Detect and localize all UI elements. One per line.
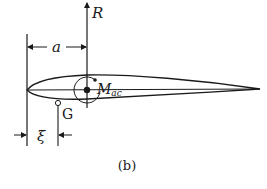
dimension-xi-label: ξ xyxy=(37,127,46,145)
figure-caption: (b) xyxy=(118,158,136,173)
chord-line xyxy=(27,89,260,90)
airfoil-outline xyxy=(27,75,260,99)
dimension-a-label: a xyxy=(52,38,61,56)
resultant-force-label: R xyxy=(91,4,103,22)
aerodynamic-center-point xyxy=(84,87,90,93)
airfoil-diagram: R a Mac G ξ (b) xyxy=(0,0,267,189)
center-of-gravity-label: G xyxy=(62,106,73,122)
moment-label: Mac xyxy=(96,81,122,98)
center-of-gravity-marker xyxy=(55,100,60,105)
